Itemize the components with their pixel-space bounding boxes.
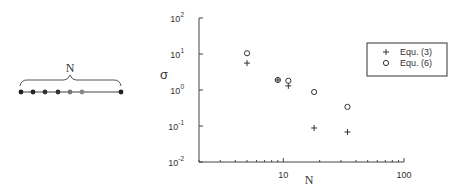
x-axis-label: N (305, 173, 314, 187)
chain-dot (80, 90, 85, 95)
chain-schematic: N (19, 61, 124, 94)
chain-dot (43, 90, 48, 95)
curly-brace (20, 75, 121, 86)
data-point (344, 129, 350, 135)
chain-dot (19, 90, 24, 95)
series-equ6 (244, 51, 350, 110)
y-tick-label: 10-2 (168, 155, 184, 168)
plot: σ N 10210110010-110-210100 (160, 11, 412, 187)
chain-dot (119, 90, 124, 95)
data-point (286, 78, 291, 83)
data-points (244, 51, 350, 135)
y-axis-label: σ (160, 67, 168, 82)
brace-label: N (66, 61, 75, 75)
legend-label: Equ. (6) (400, 58, 432, 68)
x-tick-label: 100 (396, 170, 411, 180)
legend: Equ. (3)Equ. (6) (367, 43, 447, 76)
data-point (244, 60, 250, 66)
y-tick-label: 102 (170, 11, 184, 24)
x-tick-label: 10 (278, 170, 288, 180)
y-tick-label: 101 (170, 47, 184, 60)
series-equ3 (244, 60, 350, 135)
data-point (244, 51, 249, 56)
figure: N σ N 10210110010-110-210100 Equ. (3)Equ… (0, 0, 468, 195)
legend-label: Equ. (3) (400, 47, 432, 57)
y-tick-label: 10-1 (168, 119, 184, 132)
data-point (311, 125, 317, 131)
axes: 10210110010-110-210100 (168, 11, 411, 180)
data-point (312, 89, 317, 94)
chain-dot (31, 90, 36, 95)
y-tick-label: 100 (170, 83, 184, 96)
data-point (345, 104, 350, 109)
chain-dot (56, 90, 61, 95)
chain-dot (68, 90, 73, 95)
